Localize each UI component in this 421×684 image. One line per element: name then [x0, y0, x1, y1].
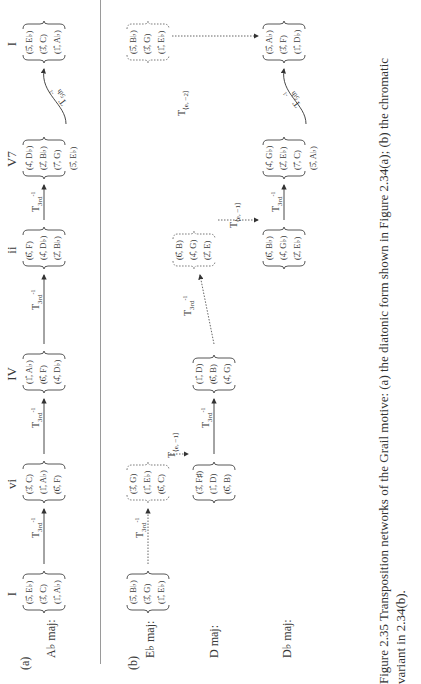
figure-caption-line2: variant in 2.34(b).: [393, 590, 409, 684]
figure-caption-line1: Figure 2.35 Transposition networks of th…: [376, 58, 392, 684]
